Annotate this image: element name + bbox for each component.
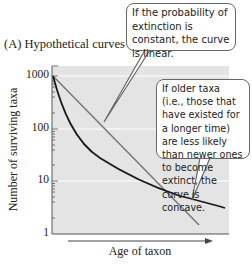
- y-tick-1: 1: [25, 226, 49, 238]
- callout-concave: If older taxa (i.e., those that have exi…: [156, 79, 250, 159]
- y-tick-10: 10: [25, 173, 49, 185]
- y-axis-label: Number of surviving taxa: [6, 85, 21, 215]
- y-tick-100: 100: [25, 121, 49, 133]
- callout-linear: If the probability of extinction is cons…: [126, 3, 236, 51]
- x-axis-label: Age of taxon: [60, 244, 220, 259]
- y-tick-1000: 1000: [25, 68, 49, 80]
